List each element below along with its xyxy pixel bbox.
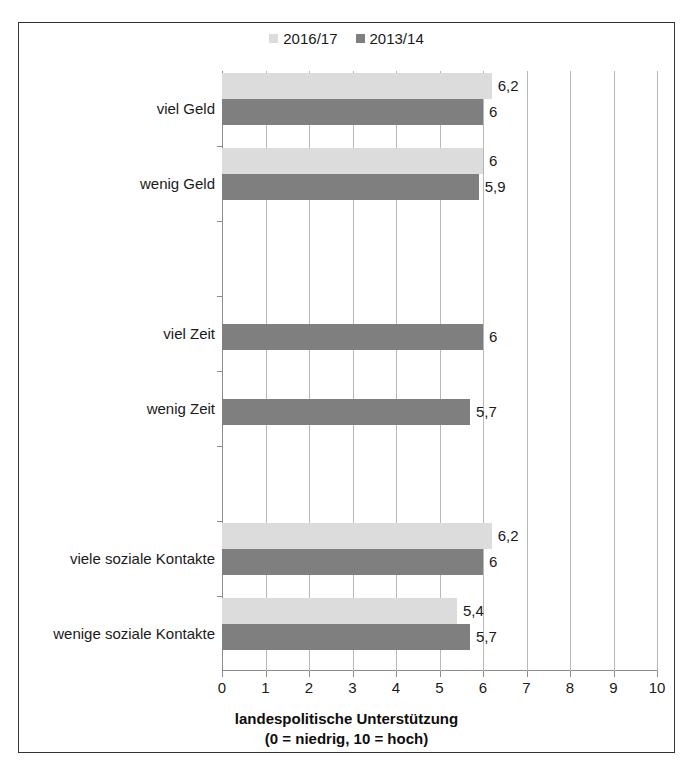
bar-value-label: 6 [483,99,497,125]
bar-2013-14 [222,99,483,125]
bar-2013-14 [222,174,479,200]
x-axis-tick-label: 9 [609,679,617,696]
bar-group: 5,7 [222,371,657,446]
x-axis-tick-label: 0 [218,679,226,696]
bar-2016-17 [222,148,483,174]
bar-2013-14 [222,324,483,350]
x-axis-tick-mark [570,671,571,677]
plot-area: 6,2665,965,76,265,45,7 [222,71,657,671]
category-label: wenig Geld [20,175,215,192]
x-axis-tick-mark [266,671,267,677]
x-axis-tick-mark [657,671,658,677]
category-label: wenige soziale Kontakte [20,625,215,642]
bar-value-label: 5,9 [479,174,506,200]
x-axis-tick-label: 7 [522,679,530,696]
bar-2016-17 [222,598,457,624]
x-axis-title-line-2: (0 = niedrig, 10 = hoch) [19,729,674,749]
bar-2013-14 [222,399,470,425]
bar-2013-14 [222,624,470,650]
bar-group: 6,26 [222,71,657,146]
bar-group: 6 [222,296,657,371]
category-label: viele soziale Kontakte [20,550,215,567]
x-axis-tick-mark [440,671,441,677]
x-axis-title: landespolitische Unterstützung (0 = nied… [19,709,674,750]
gridline [657,71,658,671]
x-axis-tick-mark [222,671,223,677]
bar-value-label: 6 [483,549,497,575]
legend-item-2013-14: 2013/14 [356,31,424,46]
x-axis-tick-label: 6 [479,679,487,696]
x-axis-tick-mark [353,671,354,677]
legend-label-2013-14: 2013/14 [370,31,424,46]
x-axis-tick-label: 5 [435,679,443,696]
x-axis-tick-mark [396,671,397,677]
x-axis-title-line-1: landespolitische Unterstützung [19,709,674,729]
x-axis-tick-label: 10 [649,679,666,696]
bar-value-label: 6,2 [492,73,519,99]
chart-legend: 2016/17 2013/14 [19,31,674,46]
y-axis-category-labels: viel Geldwenig Geldviel Zeitwenig Zeitvi… [19,71,215,671]
bar-value-label: 6 [483,148,497,174]
x-axis-tick-mark [309,671,310,677]
bar-group: 6,26 [222,521,657,596]
x-axis-tick-label: 4 [392,679,400,696]
bar-group [222,221,657,296]
bar-2016-17 [222,73,492,99]
x-axis-ticks: 012345678910 [222,671,657,701]
x-axis-tick-label: 3 [348,679,356,696]
chart-figure: 2016/17 2013/14 viel Geldwenig Geldviel … [18,22,675,753]
category-label: viel Geld [20,100,215,117]
x-axis-tick-label: 8 [566,679,574,696]
bar-value-label: 5,7 [470,399,497,425]
x-axis-tick-label: 1 [261,679,269,696]
bar-value-label: 6,2 [492,523,519,549]
category-label: wenig Zeit [20,400,215,417]
bar-value-label: 5,7 [470,624,497,650]
legend-swatch-icon-2013-14 [356,34,365,43]
bar-value-label: 5,4 [457,598,484,624]
bar-value-label: 6 [483,324,497,350]
bar-group: 65,9 [222,146,657,221]
bar-2016-17 [222,523,492,549]
x-axis-tick-mark [483,671,484,677]
category-label: viel Zeit [20,325,215,342]
bar-group: 5,45,7 [222,596,657,671]
legend-item-2016-17: 2016/17 [269,31,337,46]
x-axis-tick-mark [527,671,528,677]
legend-label-2016-17: 2016/17 [283,31,337,46]
legend-swatch-icon-2016-17 [269,34,278,43]
x-axis-tick-label: 2 [305,679,313,696]
x-axis-tick-mark [614,671,615,677]
bar-group [222,446,657,521]
bar-2013-14 [222,549,483,575]
